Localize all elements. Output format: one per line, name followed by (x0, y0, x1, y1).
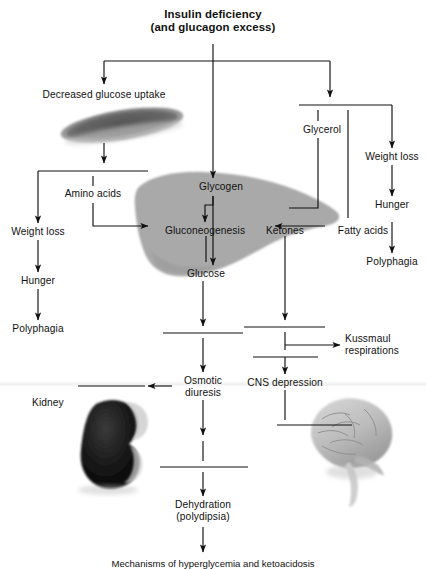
node-glucose: Glucose (187, 268, 225, 280)
node-fatty-acids: Fatty acids (338, 225, 388, 237)
node-weight-loss-right: Weight loss (365, 151, 419, 163)
node-polyphagia-right: Polyphagia (366, 256, 417, 268)
node-decreased-glucose-uptake: Decreased glucose uptake (42, 89, 165, 101)
node-amino-acids: Amino acids (65, 188, 122, 200)
kidney-image (78, 400, 148, 495)
title-line-1: Insulin deficiency (151, 8, 276, 21)
dehydration-line-2: (polydipsia) (175, 511, 231, 523)
title-line-2: (and glucagon excess) (151, 21, 276, 34)
dehydration-line-1: Dehydration (175, 499, 231, 511)
figure-caption: Mechanisms of hyperglycemia and ketoacid… (111, 558, 314, 569)
muscle-image (58, 100, 185, 149)
organ-label-kidney: Kidney (32, 397, 64, 409)
node-cns-depression: CNS depression (247, 377, 323, 389)
node-kussmaul-respirations: Kussmaul respirations (345, 333, 399, 356)
node-gluconeogenesis: Gluconeogenesis (165, 225, 245, 237)
node-glycerol: Glycerol (303, 124, 341, 136)
kussmaul-line-1: Kussmaul (345, 333, 399, 345)
brain-image (311, 398, 392, 507)
kussmaul-line-2: respirations (345, 345, 399, 357)
node-hunger-right: Hunger (375, 199, 409, 211)
osmotic-diuresis-line-1: Osmotic (184, 375, 222, 387)
page-title: Insulin deficiency (and glucagon excess) (151, 8, 276, 34)
node-dehydration: Dehydration (polydipsia) (175, 499, 231, 522)
node-hunger-left: Hunger (21, 275, 55, 287)
node-weight-loss-left: Weight loss (11, 226, 65, 238)
osmotic-diuresis-line-2: diuresis (184, 387, 222, 399)
node-osmotic-diuresis: Osmotic diuresis (184, 375, 222, 398)
node-glycogen: Glycogen (199, 181, 243, 193)
node-polyphagia-left: Polyphagia (12, 323, 63, 335)
node-ketones: Ketones (266, 225, 304, 237)
